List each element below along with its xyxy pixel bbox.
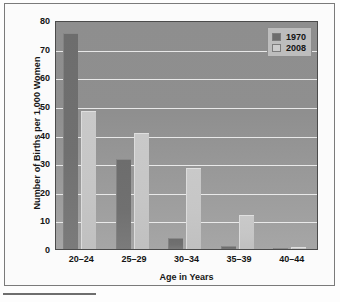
y-tick-label: 30 [16,159,50,169]
bar-1970-40-44 [273,248,288,249]
bar-2008-30-34 [186,168,201,249]
plot-area: 19702008 [55,21,318,250]
x-tick-label: 30–34 [157,254,217,264]
chart-legend: 19702008 [267,27,312,57]
legend-item-1970: 1970 [272,31,306,42]
x-axis-title: Age in Years [55,272,318,282]
figure-root: Number of Births per 1,000 Women 0102030… [0,0,340,302]
x-tick-label: 20–24 [51,254,111,264]
y-tick-label: 10 [16,216,50,226]
y-tick-label: 40 [16,131,50,141]
legend-label: 1970 [286,32,306,42]
x-tick-label: 25–29 [104,254,164,264]
x-tick-label: 40–44 [262,254,322,264]
bar-1970-35-39 [221,246,236,249]
bar-group [161,22,214,249]
x-tick-label: 35–39 [209,254,269,264]
legend-swatch-icon [272,33,281,41]
bar-2008-20-24 [81,111,96,249]
legend-item-2008: 2008 [272,42,306,53]
y-tick-label: 20 [16,188,50,198]
bar-2008-25-29 [134,133,149,249]
y-tick-label: 80 [16,16,50,26]
bar-1970-30-34 [168,238,183,249]
bar-group [56,22,109,249]
y-tick-label: 50 [16,102,50,112]
legend-label: 2008 [286,43,306,53]
legend-swatch-icon [272,44,281,52]
bar-1970-20-24 [63,33,78,249]
bar-2008-35-39 [239,215,254,249]
bar-group [214,22,267,249]
y-tick-label: 70 [16,45,50,55]
y-tick-label: 0 [16,245,50,255]
footnote-rule [3,293,96,295]
bar-1970-25-29 [116,159,131,249]
bar-group [109,22,162,249]
y-tick-label: 60 [16,73,50,83]
bar-2008-40-44 [291,247,306,249]
